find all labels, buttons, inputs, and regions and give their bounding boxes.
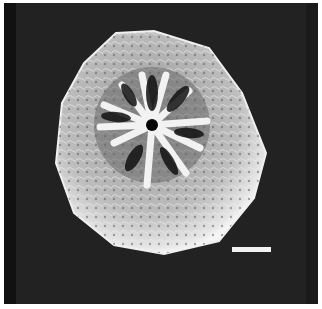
scale-bar <box>232 247 271 252</box>
specimen-sphere <box>4 3 318 304</box>
micrograph-frame <box>4 3 318 304</box>
